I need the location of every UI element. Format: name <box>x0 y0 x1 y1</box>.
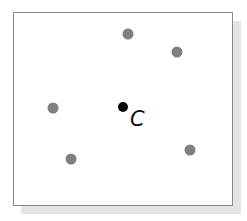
point-2 <box>172 47 183 58</box>
point-5 <box>185 145 196 156</box>
point-3 <box>48 103 59 114</box>
center-point <box>118 102 128 112</box>
center-label: C <box>130 109 145 130</box>
point-1 <box>123 29 134 40</box>
point-4 <box>66 154 77 165</box>
